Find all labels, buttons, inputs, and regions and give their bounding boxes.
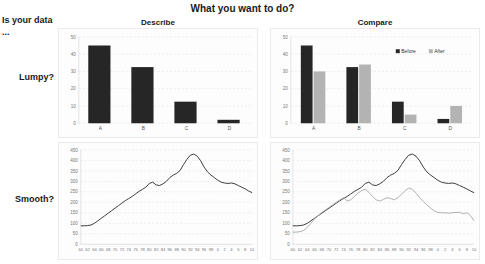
svg-text:70: 70 — [327, 247, 332, 252]
svg-text:80: 80 — [363, 247, 368, 252]
svg-text:400: 400 — [70, 158, 78, 163]
svg-text:50: 50 — [285, 231, 291, 236]
svg-text:350: 350 — [70, 169, 78, 174]
svg-text:0: 0 — [285, 121, 288, 126]
svg-text:94: 94 — [195, 247, 200, 252]
svg-text:D: D — [228, 126, 232, 131]
svg-text:74: 74 — [126, 247, 131, 252]
svg-text:60: 60 — [291, 247, 296, 252]
svg-text:68: 68 — [320, 247, 325, 252]
svg-text:78: 78 — [356, 247, 361, 252]
svg-text:450: 450 — [282, 148, 290, 153]
svg-text:62: 62 — [85, 247, 90, 252]
svg-text:400: 400 — [282, 158, 290, 163]
svg-text:2: 2 — [224, 247, 227, 252]
matrix-corner-label: Is your data ... — [2, 14, 54, 38]
svg-text:66: 66 — [312, 247, 317, 252]
svg-text:74: 74 — [341, 247, 346, 252]
svg-text:A: A — [312, 126, 316, 131]
svg-text:200: 200 — [70, 200, 78, 205]
svg-text:0: 0 — [437, 247, 440, 252]
svg-text:98: 98 — [209, 247, 214, 252]
page-title: What you want to do? — [0, 3, 485, 14]
svg-text:10: 10 — [71, 104, 77, 109]
bar-chart-lumpy-describe: 01020304050ABCD — [59, 29, 257, 137]
line-chart-smooth-describe: 0501001502002503003504004506062646668707… — [59, 143, 257, 259]
svg-text:70: 70 — [113, 247, 118, 252]
svg-text:92: 92 — [407, 247, 412, 252]
svg-text:250: 250 — [70, 190, 78, 195]
svg-text:2: 2 — [444, 247, 447, 252]
svg-text:78: 78 — [140, 247, 145, 252]
svg-text:0: 0 — [73, 121, 76, 126]
svg-text:86: 86 — [168, 247, 173, 252]
chart-panel-smooth-compare: 0501001502002503003504004506062646668707… — [270, 142, 480, 260]
svg-text:100: 100 — [70, 221, 78, 226]
svg-text:200: 200 — [282, 200, 290, 205]
svg-text:40: 40 — [71, 52, 77, 57]
svg-text:68: 68 — [106, 247, 111, 252]
svg-text:66: 66 — [99, 247, 104, 252]
svg-text:94: 94 — [414, 247, 419, 252]
svg-text:10: 10 — [472, 247, 477, 252]
svg-text:50: 50 — [73, 231, 79, 236]
svg-text:60: 60 — [79, 247, 84, 252]
svg-text:84: 84 — [161, 247, 166, 252]
svg-text:100: 100 — [282, 221, 290, 226]
svg-text:B: B — [142, 126, 146, 131]
svg-text:C: C — [403, 126, 407, 131]
svg-text:50: 50 — [71, 35, 77, 40]
svg-text:86: 86 — [385, 247, 390, 252]
svg-text:D: D — [448, 126, 452, 131]
svg-text:76: 76 — [349, 247, 354, 252]
svg-text:92: 92 — [188, 247, 193, 252]
svg-text:After: After — [434, 49, 445, 54]
decision-matrix: What you want to do? Describe Compare Is… — [0, 0, 485, 264]
svg-text:96: 96 — [202, 247, 207, 252]
svg-text:88: 88 — [174, 247, 179, 252]
svg-text:62: 62 — [298, 247, 303, 252]
svg-text:A: A — [99, 126, 103, 131]
chart-panel-smooth-describe: 0501001502002503003504004506062646668707… — [58, 142, 258, 260]
svg-text:82: 82 — [154, 247, 159, 252]
column-header-compare: Compare — [270, 18, 480, 27]
chart-panel-lumpy-compare: 01020304050ABCDBeforeAfter — [270, 28, 480, 138]
svg-text:30: 30 — [71, 69, 77, 74]
svg-text:C: C — [185, 126, 189, 131]
svg-text:88: 88 — [392, 247, 397, 252]
column-header-describe: Describe — [58, 18, 258, 27]
svg-text:64: 64 — [305, 247, 310, 252]
svg-text:50: 50 — [283, 35, 289, 40]
svg-text:6: 6 — [237, 247, 240, 252]
svg-text:450: 450 — [70, 148, 78, 153]
svg-text:Before: Before — [401, 49, 416, 54]
row-header-lumpy: Lumpy? — [0, 72, 54, 82]
svg-text:300: 300 — [70, 179, 78, 184]
line-chart-smooth-compare: 0501001502002503003504004506062646668707… — [271, 143, 479, 259]
svg-text:150: 150 — [70, 210, 78, 215]
svg-text:84: 84 — [378, 247, 383, 252]
svg-text:4: 4 — [451, 247, 454, 252]
svg-text:98: 98 — [428, 247, 433, 252]
svg-text:8: 8 — [244, 247, 247, 252]
svg-text:20: 20 — [71, 86, 77, 91]
svg-text:150: 150 — [282, 210, 290, 215]
svg-text:82: 82 — [370, 247, 375, 252]
svg-text:350: 350 — [282, 169, 290, 174]
svg-text:30: 30 — [283, 69, 289, 74]
svg-text:72: 72 — [120, 247, 125, 252]
svg-text:10: 10 — [283, 104, 289, 109]
svg-text:B: B — [358, 126, 362, 131]
svg-text:0: 0 — [217, 247, 220, 252]
svg-text:20: 20 — [283, 86, 289, 91]
svg-text:90: 90 — [399, 247, 404, 252]
row-header-smooth: Smooth? — [0, 194, 54, 204]
svg-text:4: 4 — [230, 247, 233, 252]
chart-panel-lumpy-describe: 01020304050ABCD — [58, 28, 258, 138]
bar-chart-lumpy-compare: 01020304050ABCDBeforeAfter — [271, 29, 479, 137]
svg-text:8: 8 — [466, 247, 469, 252]
svg-text:64: 64 — [92, 247, 97, 252]
svg-text:250: 250 — [282, 190, 290, 195]
svg-text:76: 76 — [133, 247, 138, 252]
svg-text:6: 6 — [458, 247, 461, 252]
